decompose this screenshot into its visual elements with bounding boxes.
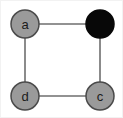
node-a[interactable]: a (11, 10, 39, 38)
node-layer: a c d (11, 10, 114, 110)
graph-figure: a c d (0, 0, 123, 118)
node-d-label: d (21, 89, 28, 104)
node-a-label: a (21, 17, 29, 32)
node-c[interactable]: c (86, 82, 114, 110)
node-c-label: c (97, 89, 104, 104)
edge-layer (25, 24, 100, 96)
graph-canvas: a c d (1, 1, 123, 118)
node-d[interactable]: d (11, 82, 39, 110)
node-b-visited[interactable] (86, 10, 114, 38)
node-b-circle[interactable] (86, 10, 114, 38)
